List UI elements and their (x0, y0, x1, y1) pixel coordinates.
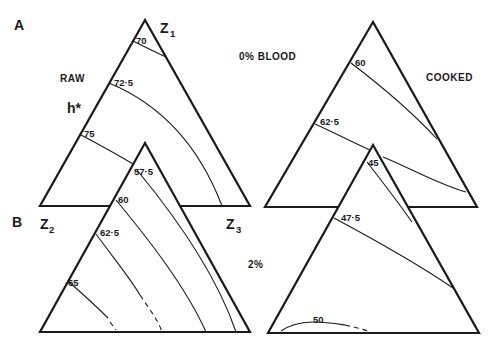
contour-label: 50 (313, 314, 324, 325)
contour-label: 45 (368, 157, 379, 168)
contour-label: 60 (118, 194, 129, 205)
ternary-contour-figure: A B RAW COOKED 0% BLOOD 2% h* Z 1 Z 2 Z … (0, 0, 493, 347)
vertex-z3-label: Z 3 (226, 216, 241, 235)
svg-text:Z: Z (160, 20, 169, 36)
contour-label: 60 (355, 57, 366, 68)
blood-0-label: 0% BLOOD (239, 51, 296, 62)
svg-text:1: 1 (170, 28, 176, 39)
contour-label: 70 (136, 35, 147, 46)
contour-label: 65 (68, 277, 79, 288)
h-star-axis-label: h* (67, 100, 82, 116)
svg-text:Z: Z (40, 216, 49, 232)
panel-a-label: A (14, 17, 24, 33)
contour-label: 47·5 (341, 212, 361, 223)
vertex-z1-label: Z 1 (160, 20, 176, 39)
contour-label: 57·5 (134, 166, 154, 177)
svg-text:3: 3 (236, 224, 241, 235)
contour-label: 75 (84, 128, 95, 139)
blood-2-label: 2% (248, 259, 263, 270)
vertex-z2-label: Z 2 (40, 216, 54, 235)
raw-label: RAW (60, 73, 85, 84)
contour-label: 72·5 (114, 77, 134, 88)
panel-b-label: B (12, 214, 22, 230)
cooked-label: COOKED (426, 72, 473, 83)
svg-text:2: 2 (49, 224, 54, 235)
contour-label: 62·5 (320, 116, 340, 127)
svg-text:Z: Z (226, 216, 235, 232)
contour-label: 62·5 (100, 227, 120, 238)
